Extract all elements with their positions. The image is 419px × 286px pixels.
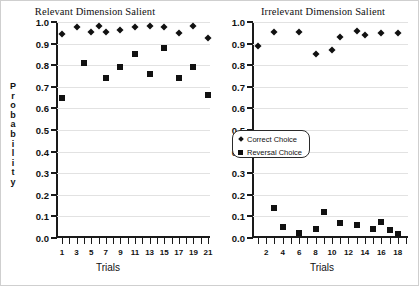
y-axis-tick-label: 0.0 <box>232 233 245 244</box>
x-axis-tick <box>357 238 358 244</box>
panel-relevant-dimension: Relevant Dimension Salient 0.00.10.20.30… <box>0 0 219 286</box>
gridline <box>252 108 408 109</box>
x-axis-tick-label: 21 <box>204 248 213 257</box>
x-axis-tick <box>266 238 267 244</box>
data-point-reversal-choice <box>190 64 196 70</box>
data-point-correct-choice <box>190 23 197 30</box>
y-axis-tick-label: 0.0 <box>36 233 49 244</box>
y-axis-tick <box>51 215 57 217</box>
data-point-reversal-choice <box>296 230 302 236</box>
y-axis-tick <box>247 172 253 174</box>
y-axis-tick-label: 0.5 <box>36 125 49 136</box>
data-point-reversal-choice <box>117 64 123 70</box>
x-axis-tick-label: 6 <box>297 248 301 257</box>
gridline <box>56 130 210 131</box>
data-point-correct-choice <box>394 29 401 36</box>
data-point-reversal-choice <box>337 220 343 226</box>
data-point-correct-choice <box>131 24 138 31</box>
gridline <box>252 44 408 45</box>
data-point-correct-choice <box>328 47 335 54</box>
y-axis-tick <box>51 151 57 153</box>
x-axis-tick <box>406 238 407 244</box>
x-axis-tick <box>398 238 399 244</box>
square-marker-icon <box>236 150 245 155</box>
x-axis-tick-label: 13 <box>145 248 154 257</box>
x-axis-tick <box>258 238 259 244</box>
y-axis-tick-label: 0.1 <box>36 211 49 222</box>
x-axis-tick-label: 18 <box>393 248 402 257</box>
x-axis-title-irrelevant: Trials <box>310 262 334 273</box>
y-axis-tick <box>247 215 253 217</box>
y-axis-tick-label: 0.8 <box>36 60 49 71</box>
gridline <box>56 152 210 153</box>
x-axis-tick <box>291 238 292 244</box>
gridline <box>56 22 210 23</box>
data-point-reversal-choice <box>271 205 277 211</box>
y-axis-tick-label: 0.8 <box>232 60 245 71</box>
chart-legend: Correct Choice Reversal Choice <box>232 130 310 158</box>
y-axis-tick <box>247 21 253 23</box>
data-point-reversal-choice <box>370 226 376 232</box>
x-axis-tick <box>365 238 366 244</box>
legend-item-reversal-choice: Reversal Choice <box>236 146 306 158</box>
y-axis-tick-label: 0.4 <box>36 146 49 157</box>
y-axis-tick <box>51 237 57 239</box>
gridline <box>252 65 408 66</box>
y-axis-tick <box>247 194 253 196</box>
y-axis-tick <box>51 194 57 196</box>
x-axis-title-relevant: Trials <box>96 262 120 273</box>
y-axis-tick-label: 0.7 <box>36 81 49 92</box>
data-point-correct-choice <box>73 24 80 31</box>
x-axis-tick <box>283 238 284 244</box>
data-point-reversal-choice <box>354 222 360 228</box>
gridline <box>56 44 210 45</box>
data-point-correct-choice <box>161 24 168 31</box>
gridline <box>252 195 408 196</box>
panel-title-irrelevant: Irrelevant Dimension Salient <box>233 6 413 17</box>
x-axis-tick-label: 12 <box>344 248 353 257</box>
y-axis-tick-label: 0.9 <box>36 38 49 49</box>
data-point-correct-choice <box>312 51 319 58</box>
x-axis-tick <box>390 238 391 244</box>
x-axis-tick-label: 3 <box>74 248 78 257</box>
x-axis-tick <box>381 238 382 244</box>
x-axis-tick <box>106 238 107 244</box>
gridline <box>252 87 408 88</box>
diamond-marker-icon <box>236 137 245 141</box>
y-axis-tick <box>247 86 253 88</box>
x-axis-tick <box>77 238 78 244</box>
data-point-reversal-choice <box>387 227 393 233</box>
x-axis-tick <box>373 238 374 244</box>
data-point-reversal-choice <box>378 219 384 225</box>
x-axis-tick-label: 15 <box>160 248 169 257</box>
gridline <box>56 173 210 174</box>
data-point-reversal-choice <box>176 75 182 81</box>
x-axis-tick <box>128 238 129 244</box>
y-axis-tick-label: 0.2 <box>36 189 49 200</box>
gridline <box>252 173 408 174</box>
x-axis-tick-label: 10 <box>328 248 337 257</box>
x-axis-tick-label: 9 <box>118 248 122 257</box>
data-point-correct-choice <box>353 27 360 34</box>
data-point-reversal-choice <box>59 95 65 101</box>
x-axis-tick <box>84 238 85 244</box>
legend-item-correct-choice: Correct Choice <box>236 133 306 145</box>
data-point-correct-choice <box>361 31 368 38</box>
y-axis-tick-label: 0.6 <box>36 103 49 114</box>
x-axis-tick <box>324 238 325 244</box>
y-axis-tick-label: 0.7 <box>232 81 245 92</box>
y-axis-tick <box>51 172 57 174</box>
x-axis-tick <box>120 238 121 244</box>
x-axis-tick <box>179 238 180 244</box>
data-point-reversal-choice <box>205 92 211 98</box>
y-axis-tick <box>51 64 57 66</box>
x-axis-tick-label: 7 <box>104 248 108 257</box>
x-axis-tick-label: 19 <box>189 248 198 257</box>
gridline <box>56 216 210 217</box>
y-axis-tick-label: 1.0 <box>232 17 245 28</box>
x-axis-tick <box>274 238 275 244</box>
data-point-reversal-choice <box>132 51 138 57</box>
data-point-correct-choice <box>117 26 124 33</box>
x-axis-tick-label: 1 <box>60 248 64 257</box>
plot-area-relevant: 0.00.10.20.30.40.50.60.70.80.91.01357911… <box>56 22 210 238</box>
